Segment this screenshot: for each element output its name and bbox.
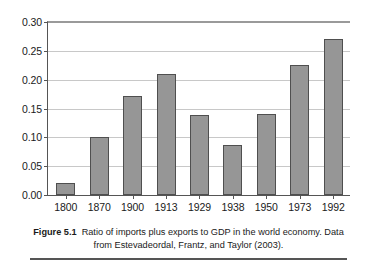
x-axis-label-1938: 1938 bbox=[221, 201, 244, 213]
bar-slot: 1973 bbox=[283, 22, 316, 195]
x-axis-label-1992: 1992 bbox=[322, 201, 345, 213]
x-axis-label-1929: 1929 bbox=[188, 201, 211, 213]
y-axis-label: 0.30 bbox=[22, 16, 42, 28]
caption-label: Figure 5.1 bbox=[33, 227, 76, 237]
x-tick-mark bbox=[99, 195, 100, 199]
bar-1870 bbox=[90, 137, 109, 195]
x-tick-mark bbox=[266, 195, 267, 199]
y-axis-label: 0.10 bbox=[22, 131, 42, 143]
y-tick-mark bbox=[44, 109, 48, 110]
y-axis-label: 0.25 bbox=[22, 45, 42, 57]
bar-1950 bbox=[257, 114, 276, 195]
bar-chart: 0.000.050.100.150.200.250.30 18001870190… bbox=[0, 0, 377, 212]
y-axis-label: 0.15 bbox=[22, 103, 42, 115]
x-tick-mark bbox=[166, 195, 167, 199]
x-tick-mark bbox=[300, 195, 301, 199]
y-tick-mark bbox=[44, 51, 48, 52]
bar-slot: 1800 bbox=[49, 22, 82, 195]
y-axis-label: 0.05 bbox=[22, 160, 42, 172]
bar-1992 bbox=[324, 39, 343, 195]
x-tick-mark bbox=[66, 195, 67, 199]
x-axis-label-1950: 1950 bbox=[255, 201, 278, 213]
y-tick-mark bbox=[44, 137, 48, 138]
bar-slot: 1913 bbox=[149, 22, 182, 195]
bar-slot: 1929 bbox=[183, 22, 216, 195]
bar-1913 bbox=[157, 74, 176, 195]
bar-1938 bbox=[223, 145, 242, 195]
y-tick-mark bbox=[44, 195, 48, 196]
bar-slot: 1992 bbox=[317, 22, 350, 195]
y-tick-mark bbox=[44, 22, 48, 23]
y-tick-mark bbox=[44, 166, 48, 167]
x-tick-mark bbox=[233, 195, 234, 199]
x-axis-label-1913: 1913 bbox=[155, 201, 178, 213]
x-axis-label-1870: 1870 bbox=[88, 201, 111, 213]
bar-1973 bbox=[290, 65, 309, 195]
plot-area: 0.000.050.100.150.200.250.30 18001870190… bbox=[47, 21, 350, 195]
figure-caption: Figure 5.1Ratio of imports plus exports … bbox=[30, 226, 347, 252]
y-tick-mark bbox=[44, 80, 48, 81]
bar-1900 bbox=[123, 96, 142, 195]
figure-container: 0.000.050.100.150.200.250.30 18001870190… bbox=[0, 0, 377, 269]
y-axis-label: 0.00 bbox=[22, 189, 42, 201]
caption-text: Ratio of imports plus exports to GDP in … bbox=[82, 227, 344, 250]
x-tick-mark bbox=[133, 195, 134, 199]
x-tick-mark bbox=[333, 195, 334, 199]
bars-group: 180018701900191319291938195019731992 bbox=[49, 22, 350, 195]
x-tick-mark bbox=[199, 195, 200, 199]
bar-slot: 1938 bbox=[216, 22, 249, 195]
bar-1800 bbox=[56, 183, 75, 195]
caption-divider bbox=[30, 258, 347, 260]
x-axis-label-1800: 1800 bbox=[54, 201, 77, 213]
x-axis-label-1973: 1973 bbox=[288, 201, 311, 213]
bar-slot: 1870 bbox=[82, 22, 115, 195]
bar-slot: 1950 bbox=[250, 22, 283, 195]
bar-slot: 1900 bbox=[116, 22, 149, 195]
bar-1929 bbox=[190, 115, 209, 195]
y-axis-label: 0.20 bbox=[22, 74, 42, 86]
x-axis-label-1900: 1900 bbox=[121, 201, 144, 213]
